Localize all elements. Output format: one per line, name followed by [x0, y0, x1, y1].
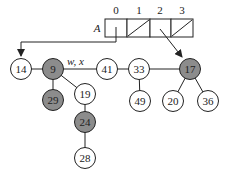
- node-41: 41: [97, 59, 118, 80]
- node-label: 33: [134, 63, 146, 75]
- node-14: 14: [11, 59, 32, 80]
- node-29: 29: [43, 90, 64, 111]
- node-20: 20: [163, 91, 184, 112]
- fibonacci-heap-diagram: 0 1 2 3 A w, x 14 9: [0, 0, 226, 178]
- array-name-label: A: [93, 22, 101, 34]
- node-19: 19: [75, 84, 96, 105]
- node-label: 29: [48, 94, 60, 106]
- node-label: 49: [135, 95, 147, 107]
- array-index-3: 3: [179, 4, 185, 16]
- node-label: 24: [80, 116, 92, 128]
- node-36: 36: [198, 91, 219, 112]
- array-index-2: 2: [157, 4, 163, 16]
- node-17: 17: [180, 59, 201, 80]
- pointer-arrow-a0: [21, 27, 116, 56]
- array-indices: 0 1 2 3: [113, 4, 185, 16]
- array-cell-2: [150, 19, 171, 37]
- node-24: 24: [75, 112, 96, 133]
- node-49: 49: [130, 91, 151, 112]
- array-A: [105, 19, 193, 37]
- node-label: 36: [203, 95, 215, 107]
- tree-edges: [21, 69, 208, 158]
- array-index-1: 1: [136, 4, 142, 16]
- node-28: 28: [75, 148, 96, 169]
- node-33: 33: [129, 59, 150, 80]
- node-label: 9: [50, 63, 56, 75]
- array-index-0: 0: [113, 4, 119, 16]
- pointer-label-wx: w, x: [67, 55, 84, 67]
- node-label: 14: [16, 63, 28, 75]
- node-label: 17: [185, 63, 197, 75]
- node-label: 28: [80, 152, 92, 164]
- node-label: 19: [80, 88, 92, 100]
- node-label: 41: [102, 63, 113, 75]
- node-label: 20: [168, 95, 180, 107]
- node-9: 9: [43, 59, 64, 80]
